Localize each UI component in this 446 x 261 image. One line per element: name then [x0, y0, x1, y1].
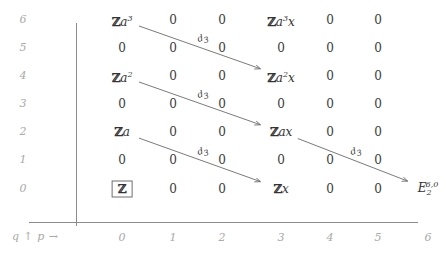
cell-p4-q4: 0: [326, 69, 334, 83]
cell-p5-q1: 0: [374, 153, 382, 167]
x-axis-tick-4: 4: [318, 232, 342, 244]
differential-arrow-3: [298, 139, 408, 182]
cell-p5-q4: 0: [374, 69, 382, 83]
cell-p1-q2: 0: [169, 125, 177, 139]
cell-p5-q2: 0: [374, 125, 382, 139]
cell-p5-q3: 0: [374, 97, 382, 111]
x-axis-tick-1: 1: [161, 232, 185, 244]
differential-arrow-2: [139, 138, 260, 182]
differential-label-1: d3: [196, 88, 210, 103]
y-axis-tick-1: 1: [11, 154, 35, 166]
cell-p3-q6: ℤa3x: [267, 12, 295, 29]
cell-p3-q5: 0: [277, 41, 285, 55]
cell-p2-q2: 0: [218, 125, 226, 139]
cell-p5-q6: 0: [374, 13, 382, 27]
cell-p2-q1: 0: [218, 153, 226, 167]
cell-p2-q0: 0: [218, 182, 226, 196]
y-axis-tick-6: 6: [11, 14, 35, 26]
cell-p0-q6: ℤa3: [111, 12, 132, 29]
cell-p1-q3: 0: [169, 97, 177, 111]
cell-p5-q0: 0: [374, 182, 382, 196]
cell-p1-q1: 0: [169, 153, 177, 167]
cell-p1-q4: 0: [169, 69, 177, 83]
differential-label-0: d3: [196, 32, 210, 47]
x-axis-tick-2: 2: [210, 232, 234, 244]
cell-p6-q0: E26,0: [418, 178, 439, 200]
x-axis-tick-6: 6: [416, 232, 440, 244]
cell-p2-q6: 0: [218, 13, 226, 27]
y-axis-tick-5: 5: [11, 42, 35, 54]
cell-p4-q2: 0: [326, 125, 334, 139]
y-axis-tick-4: 4: [11, 70, 35, 82]
spectral-sequence-chart: q ↑ p → 6543210 0123456 ℤa300ℤa3x0000000…: [0, 0, 446, 261]
cell-p0-q4: ℤa2: [111, 68, 132, 85]
cell-p4-q1: 0: [326, 153, 334, 167]
differential-label-3: d3: [349, 144, 363, 159]
cell-p0-q2: ℤa: [114, 125, 130, 139]
cell-p0-q1: 0: [118, 153, 126, 167]
cell-p3-q3: 0: [277, 97, 285, 111]
cell-p5-q5: 0: [374, 41, 382, 55]
y-axis-tick-0: 0: [11, 183, 35, 195]
differential-label-2: d3: [196, 144, 210, 159]
y-axis-tick-3: 3: [11, 98, 35, 110]
cell-p3-q0: ℤx: [273, 182, 289, 196]
cell-p0-q0: ℤ: [112, 181, 133, 198]
cell-p1-q5: 0: [169, 41, 177, 55]
cell-p4-q6: 0: [326, 13, 334, 27]
axis-legend: q ↑ p →: [12, 230, 59, 243]
y-axis-tick-2: 2: [11, 126, 35, 138]
cell-p2-q5: 0: [218, 41, 226, 55]
cell-p3-q4: ℤa2x: [267, 68, 295, 85]
x-axis-tick-5: 5: [366, 232, 390, 244]
cell-p4-q3: 0: [326, 97, 334, 111]
x-axis-tick-3: 3: [269, 232, 293, 244]
x-axis-tick-0: 0: [110, 232, 134, 244]
cell-p2-q4: 0: [218, 69, 226, 83]
cell-p2-q3: 0: [218, 97, 226, 111]
cell-p4-q0: 0: [326, 182, 334, 196]
cell-p1-q0: 0: [169, 182, 177, 196]
cell-p3-q1: 0: [277, 153, 285, 167]
cell-p1-q6: 0: [169, 13, 177, 27]
cell-p0-q3: 0: [118, 97, 126, 111]
cell-p3-q2: ℤax: [270, 125, 293, 139]
horizontal-axis: [29, 222, 418, 223]
cell-p0-q5: 0: [118, 41, 126, 55]
cell-p4-q5: 0: [326, 41, 334, 55]
vertical-axis: [76, 23, 77, 226]
